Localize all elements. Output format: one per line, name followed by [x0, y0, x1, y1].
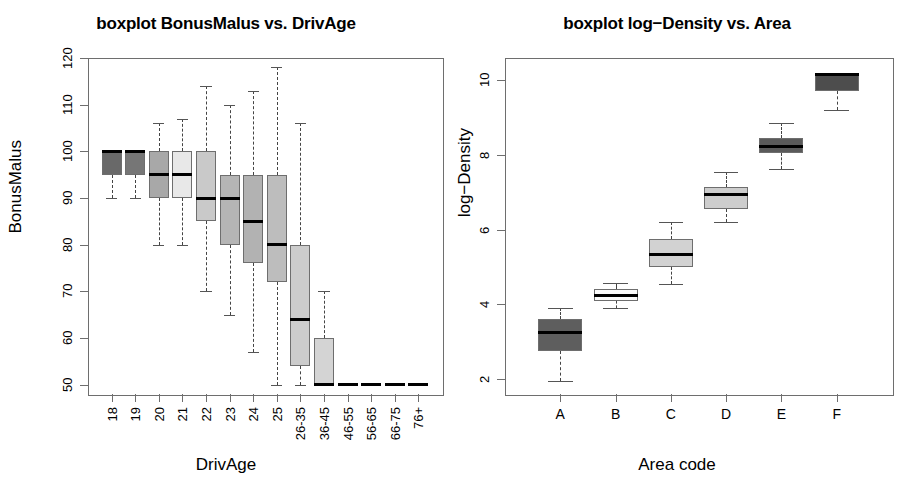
y-tick-label: 4 [477, 288, 493, 320]
whisker-upper [182, 119, 183, 152]
median-line-F [815, 73, 859, 76]
y-tick-label: 80 [60, 229, 76, 261]
whisker-cap-lower [153, 245, 164, 246]
x-tick-label-46-55: 46-55 [341, 407, 356, 440]
box-76+ [408, 383, 428, 386]
page-title-right: boxplot log−Density vs. Area [451, 14, 903, 34]
median-line-36-45 [314, 383, 334, 386]
y-tick-mark [80, 151, 88, 152]
whisker-cap-lower [295, 385, 306, 386]
whisker-cap-upper [548, 308, 573, 309]
x-axis-title-left: DrivAge [0, 455, 452, 475]
whisker-lower [230, 245, 231, 315]
x-tick-mark [253, 394, 254, 402]
y-tick-mark [497, 304, 505, 305]
panel-bonusmalus-vs-drivage: boxplot BonusMalus vs. DrivAge BonusMalu… [0, 0, 452, 500]
whisker-cap-lower [548, 381, 573, 382]
whisker-cap-upper [271, 67, 282, 68]
y-tick-label: 120 [60, 42, 76, 74]
x-tick-label-A: A [540, 406, 580, 422]
x-tick-label-E: E [761, 406, 801, 422]
x-tick-mark [159, 394, 160, 402]
y-tick-mark [497, 155, 505, 156]
box-19 [125, 151, 145, 174]
y-tick-mark [497, 379, 505, 380]
x-tick-label-21: 21 [175, 407, 190, 421]
y-tick-label: 70 [60, 275, 76, 307]
whisker-lower [277, 282, 278, 385]
x-tick-label-C: C [651, 406, 691, 422]
median-line-25 [267, 243, 287, 246]
median-line-C [649, 253, 693, 256]
x-tick-mark [135, 394, 136, 402]
box-36-45 [314, 338, 334, 385]
whisker-cap-lower [824, 110, 849, 111]
y-tick-label: 50 [60, 369, 76, 401]
x-tick-label-56-65: 56-65 [364, 407, 379, 440]
whisker-upper [159, 123, 160, 151]
x-tick-label-26-35: 26-35 [293, 407, 308, 440]
x-tick-mark [324, 394, 325, 402]
whisker-lower [135, 175, 136, 198]
x-tick-label-76+: 76+ [411, 407, 426, 429]
y-tick-mark [80, 198, 88, 199]
y-tick-label: 8 [477, 139, 493, 171]
y-tick-mark [80, 338, 88, 339]
whisker-upper [324, 291, 325, 338]
y-tick-label: 6 [477, 214, 493, 246]
whisker-cap-upper [603, 283, 628, 284]
median-line-21 [172, 173, 192, 176]
whisker-upper [230, 105, 231, 175]
y-tick-mark [497, 230, 505, 231]
whisker-cap-upper [769, 123, 794, 124]
median-line-23 [220, 197, 240, 200]
x-tick-mark [418, 394, 419, 402]
page-title-left: boxplot BonusMalus vs. DrivAge [0, 14, 452, 34]
x-tick-mark [348, 394, 349, 402]
x-tick-label-36-45: 36-45 [317, 407, 332, 440]
whisker-lower [726, 209, 727, 222]
box-56-65 [361, 383, 381, 386]
x-tick-label-66-75: 66-75 [388, 407, 403, 440]
box-A [538, 319, 582, 351]
y-tick-mark [80, 385, 88, 386]
whisker-cap-lower [177, 245, 188, 246]
y-axis-title-left: BonusMalus [6, 140, 26, 234]
x-tick-mark [300, 394, 301, 402]
whisker-cap-upper [318, 291, 329, 292]
whisker-lower [616, 301, 617, 308]
whisker-cap-lower [271, 385, 282, 386]
x-tick-label-24: 24 [246, 407, 261, 421]
y-tick-mark [80, 105, 88, 106]
box-26-35 [290, 245, 310, 366]
whisker-upper [253, 91, 254, 175]
whisker-lower [182, 198, 183, 245]
median-line-19 [125, 150, 145, 153]
x-tick-mark [230, 394, 231, 402]
x-tick-label-19: 19 [128, 407, 143, 421]
x-tick-mark [206, 394, 207, 402]
x-axis-title-right: Area code [451, 455, 903, 475]
y-tick-label: 90 [60, 182, 76, 214]
whisker-upper [726, 172, 727, 187]
panel-logdensity-vs-area: boxplot log−Density vs. Area log−Density… [451, 0, 903, 500]
x-tick-mark [781, 394, 782, 402]
y-tick-label: 60 [60, 322, 76, 354]
whisker-lower [671, 267, 672, 284]
x-tick-label-25: 25 [270, 407, 285, 421]
y-tick-label: 2 [477, 363, 493, 395]
whisker-upper [206, 86, 207, 151]
whisker-cap-upper [200, 86, 211, 87]
median-line-D [704, 193, 748, 196]
median-line-B [594, 294, 638, 297]
box-46-55 [338, 383, 358, 386]
y-tick-mark [497, 80, 505, 81]
box-25 [267, 175, 287, 282]
median-line-E [759, 145, 803, 148]
whisker-lower [781, 153, 782, 169]
whisker-upper [671, 222, 672, 239]
whisker-cap-upper [295, 123, 306, 124]
box-23 [220, 175, 240, 245]
whisker-cap-upper [177, 119, 188, 120]
whisker-upper [277, 67, 278, 174]
